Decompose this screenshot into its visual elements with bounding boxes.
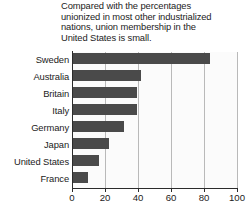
category-label: United States: [0, 156, 69, 167]
bar: [73, 155, 99, 166]
bar-row: Australia: [0, 69, 249, 86]
bar-row: France: [0, 171, 249, 188]
bar-row: Germany: [0, 120, 249, 137]
bar: [73, 104, 137, 115]
bar: [73, 53, 210, 64]
x-axis-tick: [138, 189, 139, 192]
x-tick-label: 80: [187, 192, 221, 204]
x-tick-label: 0: [55, 192, 89, 204]
category-label: Britain: [0, 88, 69, 99]
bar-chart: Compared with the percentages unionized …: [0, 0, 249, 208]
x-axis-tick: [72, 189, 73, 192]
x-tick-label: 40: [121, 192, 155, 204]
bar-row: Japan: [0, 137, 249, 154]
x-axis-tick: [237, 189, 238, 192]
bars-group: SwedenAustraliaBritainItalyGermanyJapanU…: [0, 52, 249, 188]
category-label: Japan: [0, 139, 69, 150]
bar-row: Italy: [0, 103, 249, 120]
bar-row: United States: [0, 154, 249, 171]
x-tick-label: 60: [154, 192, 188, 204]
bar: [73, 87, 137, 98]
x-axis-tick-labels: 020406080100: [0, 192, 249, 206]
chart-title: Compared with the percentages unionized …: [61, 1, 247, 43]
category-label: Australia: [0, 71, 69, 82]
bar: [73, 138, 109, 149]
bar-row: Britain: [0, 86, 249, 103]
x-tick-label: 20: [88, 192, 122, 204]
bar-row: Sweden: [0, 52, 249, 69]
category-label: Sweden: [0, 54, 69, 65]
x-axis-line: [72, 188, 238, 189]
bar: [73, 121, 124, 132]
category-label: Germany: [0, 122, 69, 133]
bar: [73, 70, 141, 81]
x-axis-tick: [105, 189, 106, 192]
bar: [73, 172, 88, 183]
category-label: Italy: [0, 105, 69, 116]
x-axis-tick: [204, 189, 205, 192]
x-axis-tick: [171, 189, 172, 192]
category-label: France: [0, 173, 69, 184]
x-tick-label: 100: [220, 192, 249, 204]
